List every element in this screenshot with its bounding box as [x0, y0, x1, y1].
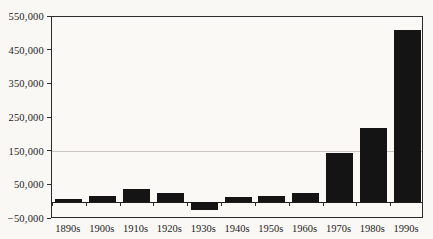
- bar-1990s: [394, 30, 421, 202]
- bar-chart-figure: 550,000450,000350,000250,000150,00050,00…: [0, 0, 433, 239]
- category-tick-mark: [86, 202, 87, 206]
- category-tick-mark: [153, 202, 154, 206]
- category-tick-mark: [390, 202, 391, 206]
- x-axis-category-label-1900s: 1900s: [89, 223, 114, 234]
- bar-1900s: [89, 196, 116, 202]
- y-axis-tick-label: 150,000: [8, 145, 44, 156]
- category-tick-mark: [323, 202, 324, 206]
- x-axis-category-label-1980s: 1980s: [360, 223, 385, 234]
- category-tick-mark: [120, 202, 121, 206]
- y-axis-tick-label: 250,000: [8, 112, 44, 123]
- x-axis-category-label-1890s: 1890s: [55, 223, 80, 234]
- x-axis-category-label-1960s: 1960s: [292, 223, 317, 234]
- bar-1950s: [258, 196, 285, 202]
- y-axis-tick-label: −50,000: [8, 213, 44, 224]
- bar-1920s: [157, 193, 184, 202]
- bar-1940s: [225, 197, 252, 202]
- category-tick-mark: [356, 202, 357, 206]
- bar-1910s: [123, 189, 150, 202]
- x-axis-category-label-1920s: 1920s: [157, 223, 182, 234]
- y-axis-tick-label: 350,000: [8, 78, 44, 89]
- y-axis-tick-label: 50,000: [14, 179, 44, 190]
- category-tick-mark: [289, 202, 290, 206]
- category-tick-mark: [52, 202, 53, 206]
- plot-area: [51, 16, 423, 218]
- x-axis-category-label-1990s: 1990s: [394, 223, 419, 234]
- x-axis-category-label-1940s: 1940s: [224, 223, 249, 234]
- bar-1930s: [191, 202, 218, 209]
- bar-1890s: [55, 199, 82, 202]
- x-axis-category-label-1910s: 1910s: [123, 223, 148, 234]
- bar-1980s: [360, 128, 387, 202]
- category-tick-mark: [255, 202, 256, 206]
- bar-1970s: [326, 153, 353, 202]
- x-axis-category-label-1930s: 1930s: [191, 223, 216, 234]
- x-axis-category-label-1970s: 1970s: [326, 223, 351, 234]
- y-axis-tick-label: 550,000: [8, 11, 44, 22]
- x-axis-category-label-1950s: 1950s: [258, 223, 283, 234]
- category-tick-mark: [422, 202, 423, 206]
- bar-1960s: [292, 193, 319, 202]
- category-tick-mark: [187, 202, 188, 206]
- y-axis-tick-label: 450,000: [8, 44, 44, 55]
- category-tick-mark: [221, 202, 222, 206]
